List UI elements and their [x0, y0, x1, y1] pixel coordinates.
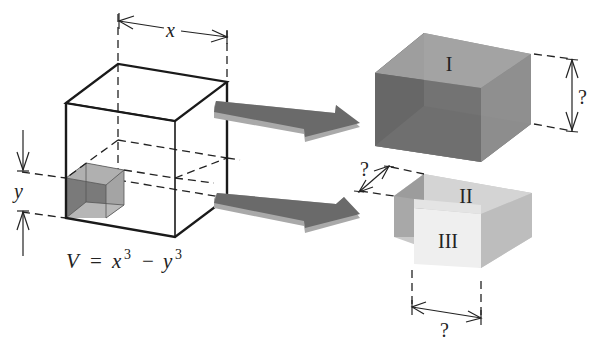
y-top-extension	[22, 172, 66, 178]
hidden-edge-back-bottom	[118, 180, 227, 198]
lower-arrow-icon	[214, 193, 360, 233]
difference-of-cubes-diagram: x y V = x 3 − y 3	[0, 0, 607, 351]
slice-line-to-arrow	[175, 178, 214, 183]
x-dimension: x	[118, 13, 227, 82]
block-I-height-label: ?	[578, 86, 587, 108]
slice-line-back	[118, 140, 227, 158]
block-III: III ?	[412, 199, 481, 341]
upper-arrow-icon	[214, 101, 360, 142]
large-cube: x y V = x 3 − y 3	[12, 13, 240, 273]
slice-line-front-inner	[124, 170, 175, 178]
block-I-label: I	[446, 53, 453, 75]
block-II-depth-label: ?	[360, 158, 369, 180]
svg-text:V = x: V = x 3 − y 3	[66, 240, 182, 273]
slice-line-right	[175, 158, 227, 178]
volume-equation: V = x 3 − y 3	[66, 240, 182, 273]
y-dimension: y	[12, 130, 29, 256]
block-III-width-label: ?	[440, 319, 449, 341]
y-bottom-extension	[22, 212, 66, 218]
x-label: x	[165, 19, 175, 41]
block-III-label: III	[438, 230, 458, 252]
y-label: y	[12, 180, 23, 203]
cube-top-face	[66, 64, 227, 121]
block-I: I ?	[375, 33, 587, 162]
slice-line-ext	[227, 158, 240, 160]
